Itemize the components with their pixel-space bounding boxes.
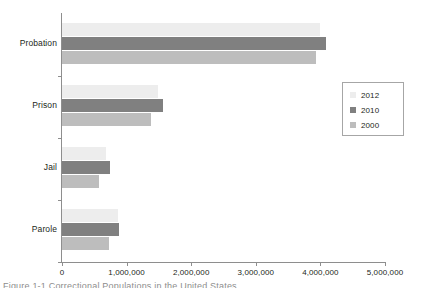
bar-probation-2000 xyxy=(62,51,316,64)
legend-item-2000[interactable]: 2000 xyxy=(350,119,379,131)
legend-item-2010[interactable]: 2010 xyxy=(350,104,379,116)
x-axis-line xyxy=(61,262,386,263)
bar-parole-2012 xyxy=(62,209,118,222)
x-axis-tick-label: 3,000,000 xyxy=(238,268,275,277)
bar-jail-2000 xyxy=(62,175,99,188)
category-label-text: Jail xyxy=(44,162,57,172)
legend: 2012 2010 2000 xyxy=(342,82,404,136)
category-label-text: Probation xyxy=(20,38,57,48)
category-label-probation: Probation xyxy=(0,38,57,50)
category-label-prison: Prison xyxy=(0,100,57,112)
x-axis-tick xyxy=(256,262,257,266)
legend-swatch-icon xyxy=(350,122,356,128)
x-axis-tick xyxy=(191,262,192,266)
bar-parole-2010 xyxy=(62,223,119,236)
category-label-jail: Jail xyxy=(0,162,57,174)
x-axis-tick xyxy=(320,262,321,266)
bar-prison-2012 xyxy=(62,85,158,98)
legend-label: 2012 xyxy=(361,91,379,100)
bar-jail-2012 xyxy=(62,147,106,160)
bar-probation-2010 xyxy=(62,37,326,50)
bar-parole-2000 xyxy=(62,237,109,250)
bar-prison-2000 xyxy=(62,113,151,126)
bars-layer xyxy=(62,14,385,262)
bar-prison-2010 xyxy=(62,99,163,112)
category-label-parole: Parole xyxy=(0,224,57,236)
bar-chart-figure: Probation Prison Jail Parole 01,000,0002… xyxy=(0,0,423,288)
category-label-text: Parole xyxy=(32,224,57,234)
x-axis-tick xyxy=(62,262,63,266)
legend-swatch-icon xyxy=(350,92,356,98)
bar-jail-2010 xyxy=(62,161,110,174)
x-axis-tick-label: 2,000,000 xyxy=(173,268,210,277)
x-axis-tick xyxy=(385,262,386,266)
x-axis-tick xyxy=(127,262,128,266)
x-axis-tick-label: 5,000,000 xyxy=(367,268,404,277)
legend-swatch-icon xyxy=(350,107,356,113)
category-label-text: Prison xyxy=(32,100,57,110)
figure-caption: Figure 1-1 Correctional Populations in t… xyxy=(3,281,420,288)
x-axis-tick-label: 1,000,000 xyxy=(108,268,145,277)
bar-probation-2012 xyxy=(62,23,320,36)
legend-label: 2010 xyxy=(361,106,379,115)
legend-label: 2000 xyxy=(361,121,379,130)
x-axis-tick-label: 4,000,000 xyxy=(302,268,339,277)
x-axis-tick-label: 0 xyxy=(60,268,65,277)
legend-item-2012[interactable]: 2012 xyxy=(350,89,379,101)
